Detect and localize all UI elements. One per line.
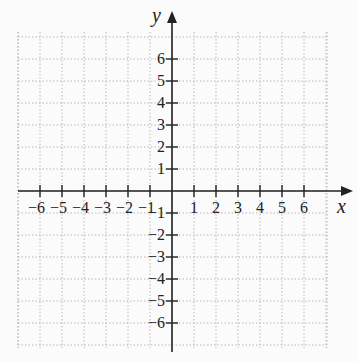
y-tick-label: −5 [148,292,165,309]
x-tick-label: 3 [234,199,242,216]
y-tick-label: −6 [148,314,165,331]
y-tick-label: −2 [148,226,165,243]
y-tick-label: 1 [157,160,165,177]
x-tick-label: 1 [190,199,198,216]
x-tick-label: 5 [278,199,286,216]
x-tick-label: −2 [116,199,133,216]
coordinate-grid: −6−5−4−3−2−1123456 654321−1−2−3−4−5−6 x … [0,0,358,363]
y-tick-label: −4 [148,270,165,287]
x-tick-label: −6 [28,199,45,216]
x-axis-ticks: −6−5−4−3−2−1123456 [28,185,308,216]
coordinate-plane: −6−5−4−3−2−1123456 654321−1−2−3−4−5−6 x … [0,0,358,363]
y-tick-label: −1 [148,204,165,221]
y-tick-label: −3 [148,248,165,265]
x-tick-label: 6 [300,199,308,216]
y-tick-label: 3 [157,116,165,133]
x-tick-label: −4 [72,199,89,216]
x-tick-label: 2 [212,199,220,216]
y-tick-label: 2 [157,138,165,155]
y-tick-label: 5 [157,72,165,89]
x-tick-label: 4 [256,199,264,216]
y-axis-label: y [150,4,161,27]
y-axis-arrow-icon [167,11,177,23]
x-tick-label: −5 [50,199,67,216]
x-tick-label: −3 [94,199,111,216]
x-axis-label: x [336,195,346,217]
y-tick-label: 4 [157,94,165,111]
y-tick-label: 6 [157,50,165,67]
